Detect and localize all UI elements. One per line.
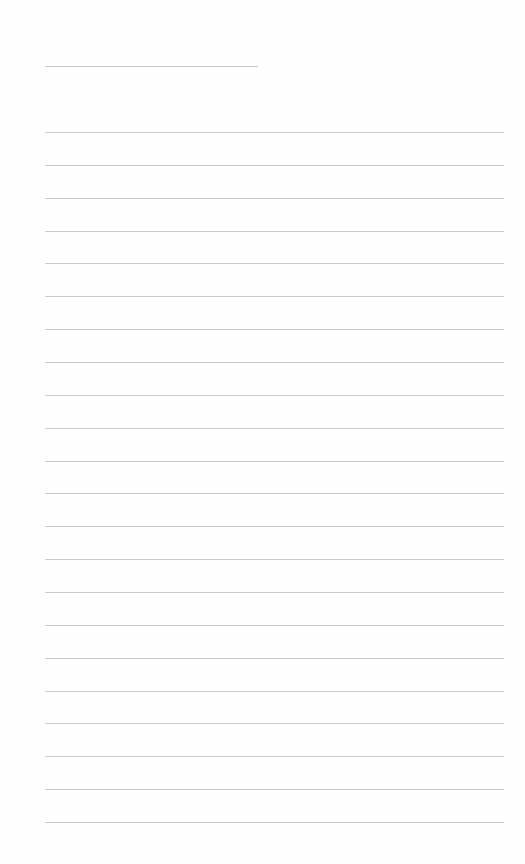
ruled-line: [45, 231, 504, 232]
header-line: [45, 66, 258, 67]
lined-paper-page: [0, 0, 525, 864]
ruled-line: [45, 559, 504, 560]
ruled-line: [45, 461, 504, 462]
ruled-line: [45, 198, 504, 199]
ruled-line: [45, 625, 504, 626]
ruled-line: [45, 395, 504, 396]
ruled-line: [45, 428, 504, 429]
ruled-line: [45, 789, 504, 790]
ruled-line: [45, 329, 504, 330]
ruled-line: [45, 362, 504, 363]
ruled-line: [45, 756, 504, 757]
ruled-line: [45, 658, 504, 659]
ruled-line: [45, 296, 504, 297]
ruled-line: [45, 691, 504, 692]
ruled-line: [45, 263, 504, 264]
ruled-line: [45, 132, 504, 133]
ruled-line: [45, 822, 504, 823]
ruled-line: [45, 165, 504, 166]
ruled-line: [45, 493, 504, 494]
ruled-line: [45, 592, 504, 593]
ruled-line: [45, 526, 504, 527]
ruled-line: [45, 723, 504, 724]
